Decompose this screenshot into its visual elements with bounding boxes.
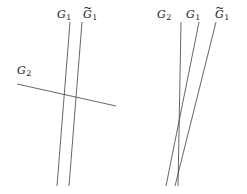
left-panel-lines — [17, 22, 116, 186]
label-left-G1-tilde: ~G1 — [83, 9, 97, 22]
label-right-G1: G1 — [186, 9, 200, 22]
right-line-G1-tilde — [175, 22, 216, 186]
label-right-G2: G2 — [157, 9, 171, 22]
label-left-G1: G1 — [57, 9, 71, 22]
label-right-G1-tilde: ~G1 — [215, 9, 229, 22]
left-line-G1 — [57, 22, 70, 186]
geometry-figure: G1 ~G1 G2 G2 G1 ~G1 — [0, 0, 247, 194]
right-line-G1 — [166, 22, 199, 186]
tilde-accent: ~ — [83, 3, 92, 13]
left-line-G2 — [17, 84, 116, 106]
tilde-accent: ~ — [215, 3, 224, 13]
figure-canvas — [0, 0, 247, 194]
right-line-G2 — [178, 22, 181, 186]
left-line-G1-tilde — [69, 22, 82, 186]
label-left-G2: G2 — [17, 65, 31, 78]
right-panel-lines — [166, 22, 216, 186]
